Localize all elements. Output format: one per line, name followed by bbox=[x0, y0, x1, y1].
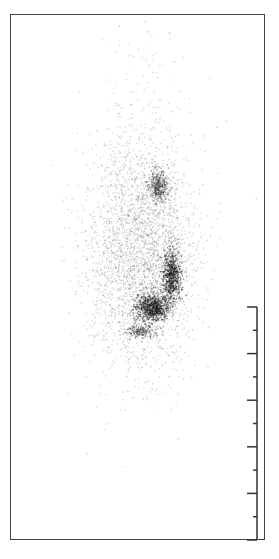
density-image bbox=[0, 0, 279, 559]
